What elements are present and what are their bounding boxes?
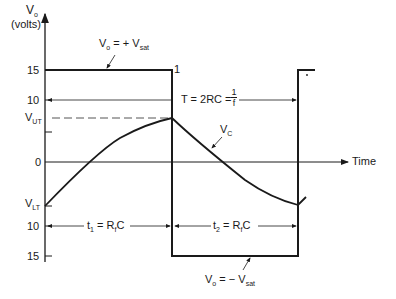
period-label: T = 2RC = xyxy=(181,94,235,105)
y-axis-units: (volts) xyxy=(11,19,41,30)
vo-neg-pointer xyxy=(243,258,250,270)
tick-label-10: 10 xyxy=(27,95,39,106)
tick-label-neg10: 10 xyxy=(27,221,39,232)
vc-pointer xyxy=(212,137,222,148)
output-square-wave xyxy=(45,70,315,256)
tick-label-0: 0 xyxy=(35,157,41,168)
waveform-diagram xyxy=(0,0,396,299)
vo-negative-sat-label: Vo = − Vsat xyxy=(205,274,255,285)
vc-label: VC xyxy=(220,124,232,135)
tick-label-vut: VUT xyxy=(25,112,42,123)
tick-label-15: 15 xyxy=(27,65,39,76)
t1-label: t1 = RfC xyxy=(87,220,124,231)
tick-label-neg15: 15 xyxy=(27,251,39,262)
corner-dot xyxy=(306,74,308,76)
vo-pos-pointer xyxy=(107,55,115,68)
vo-positive-sat-label: Vo = + Vsat xyxy=(99,38,149,49)
t2-label: t2 = RfC xyxy=(213,220,250,231)
corner-mark: 1 xyxy=(174,64,180,75)
x-axis-label: Time xyxy=(352,156,376,167)
y-axis-label: Vo xyxy=(26,4,38,16)
tick-label-vlt: VLT xyxy=(25,198,40,209)
period-fraction: 1 f xyxy=(231,87,237,108)
